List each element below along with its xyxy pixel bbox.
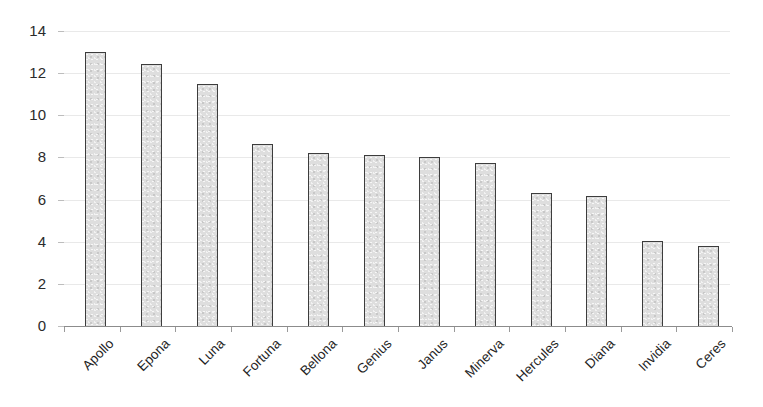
category-label-text: Genius <box>354 336 395 377</box>
category-label: Minerva <box>462 336 507 381</box>
category-label-text: Bellona <box>297 336 339 378</box>
category-label-text: Epona <box>134 336 172 374</box>
bar <box>197 84 218 326</box>
y-axis-tick-mark <box>58 31 64 32</box>
category-label: Genius <box>354 336 395 377</box>
category-label: Hercules <box>513 336 561 384</box>
y-axis-tick-label: 14 <box>12 23 46 38</box>
plot-area <box>64 31 732 326</box>
category-label: Janus <box>414 336 450 372</box>
y-axis-tick-mark <box>58 242 64 243</box>
x-axis-tick-mark <box>231 327 232 332</box>
category-label-text: Minerva <box>462 336 507 381</box>
y-axis-tick-mark <box>58 284 64 285</box>
bar <box>364 155 385 326</box>
y-axis-tick-mark <box>58 73 64 74</box>
bar <box>698 246 719 326</box>
y-axis-tick-mark <box>58 115 64 116</box>
x-axis-tick-mark <box>64 327 65 332</box>
category-label: Invidia <box>635 336 673 374</box>
bar <box>252 144 273 326</box>
bar <box>475 163 496 326</box>
gridline <box>64 200 730 201</box>
category-label: Epona <box>134 336 172 374</box>
category-label-text: Luna <box>196 336 228 368</box>
gridline <box>64 157 730 158</box>
category-label-text: Diana <box>582 336 618 372</box>
x-axis-tick-mark <box>287 327 288 332</box>
gridline <box>64 73 730 74</box>
gridline <box>64 284 730 285</box>
category-label-text: Ceres <box>693 336 729 372</box>
bar <box>531 193 552 326</box>
x-axis-tick-mark <box>342 327 343 332</box>
y-axis-tick-label: 8 <box>12 149 46 164</box>
y-axis-tick-label: 4 <box>12 234 46 249</box>
category-label: Luna <box>196 336 228 368</box>
category-label: Diana <box>582 336 618 372</box>
category-label: Bellona <box>297 336 339 378</box>
bar <box>85 52 106 326</box>
bar <box>642 241 663 326</box>
bar <box>141 64 162 326</box>
y-axis-tick-label: 12 <box>12 65 46 80</box>
x-axis-tick-mark <box>120 327 121 332</box>
y-axis-tick-mark <box>58 200 64 201</box>
category-label-text: Fortuna <box>240 336 284 380</box>
y-axis-tick-label: 0 <box>12 318 46 333</box>
gridline <box>64 31 730 32</box>
x-axis-tick-mark <box>175 327 176 332</box>
gridline <box>64 115 730 116</box>
y-axis-tick-label: 2 <box>12 276 46 291</box>
gridline <box>64 242 730 243</box>
category-label-text: Apollo <box>79 336 116 373</box>
category-label-text: Janus <box>414 336 450 372</box>
category-label: Fortuna <box>240 336 284 380</box>
category-label: Ceres <box>693 336 729 372</box>
x-axis-tick-mark <box>676 327 677 332</box>
bar-chart: 02468101214 ApolloEponaLunaFortunaBellon… <box>0 0 763 407</box>
category-label-text: Hercules <box>513 336 561 384</box>
y-axis-tick-mark <box>58 157 64 158</box>
x-axis-tick-mark <box>398 327 399 332</box>
category-label-text: Invidia <box>635 336 673 374</box>
bar <box>308 153 329 326</box>
x-axis-tick-mark <box>454 327 455 332</box>
y-axis-tick-label: 6 <box>12 192 46 207</box>
x-axis-tick-mark <box>621 327 622 332</box>
x-axis-tick-mark <box>565 327 566 332</box>
bar <box>586 196 607 326</box>
x-axis-tick-mark <box>732 327 733 332</box>
bar <box>419 157 440 326</box>
y-axis-tick-label: 10 <box>12 107 46 122</box>
category-label: Apollo <box>79 336 116 373</box>
x-axis-tick-mark <box>509 327 510 332</box>
